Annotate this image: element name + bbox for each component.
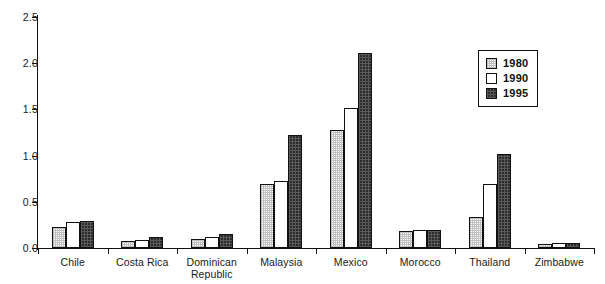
bar bbox=[80, 221, 94, 248]
y-axis-tick: 0.0 bbox=[0, 248, 38, 249]
x-axis-category-label-line: Zimbabwe bbox=[514, 256, 604, 268]
x-axis-tick-mark bbox=[177, 249, 178, 254]
legend-item-label: 1995 bbox=[503, 88, 528, 99]
x-axis-tick-mark bbox=[108, 249, 109, 254]
bar bbox=[566, 243, 580, 248]
bar bbox=[330, 130, 344, 248]
bar bbox=[191, 239, 205, 248]
bar bbox=[413, 230, 427, 248]
y-axis-tick: 1.0 bbox=[0, 156, 38, 157]
legend-item: 1980 bbox=[486, 56, 528, 71]
chart-legend: 198019901995 bbox=[478, 50, 538, 107]
y-axis-tick-label: 1.5 bbox=[8, 104, 38, 114]
y-axis-tick-label: 2.5 bbox=[8, 12, 38, 22]
bar bbox=[205, 237, 219, 248]
bar bbox=[149, 237, 163, 248]
bar-group bbox=[52, 17, 94, 248]
bar-chart: 0.00.51.01.52.02.5 ChileCosta RicaDomini… bbox=[0, 0, 605, 284]
bar bbox=[219, 234, 233, 248]
bar bbox=[399, 231, 413, 248]
x-axis-category-label-line: Republic bbox=[167, 268, 257, 280]
bar bbox=[358, 53, 372, 248]
bar-group bbox=[399, 17, 441, 248]
bar bbox=[288, 135, 302, 248]
bar bbox=[52, 227, 66, 248]
bar bbox=[497, 154, 511, 248]
bar-group bbox=[260, 17, 302, 248]
bar bbox=[552, 243, 566, 248]
bar bbox=[66, 222, 80, 248]
y-axis-tick-label: 2.0 bbox=[8, 58, 38, 68]
bar bbox=[135, 240, 149, 248]
light-stipple-swatch bbox=[486, 58, 497, 69]
x-axis-tick-mark bbox=[594, 249, 595, 254]
bar-group bbox=[538, 17, 580, 248]
legend-item: 1990 bbox=[486, 71, 528, 86]
bar bbox=[538, 244, 552, 248]
x-axis-tick-mark bbox=[455, 249, 456, 254]
bar bbox=[274, 181, 288, 248]
y-axis-tick: 1.5 bbox=[0, 109, 38, 110]
bar-group bbox=[121, 17, 163, 248]
bar bbox=[344, 108, 358, 248]
y-axis-tick-label: 0.0 bbox=[8, 243, 38, 253]
legend-item-label: 1990 bbox=[503, 73, 528, 84]
bar bbox=[260, 184, 274, 248]
bar bbox=[427, 230, 441, 248]
white-swatch bbox=[486, 73, 497, 84]
y-axis-tick: 2.5 bbox=[0, 17, 38, 18]
legend-item: 1995 bbox=[486, 86, 528, 101]
x-axis-tick-mark bbox=[38, 249, 39, 254]
legend-item-label: 1980 bbox=[503, 58, 528, 69]
x-axis-tick-mark bbox=[525, 249, 526, 254]
x-axis-category-label: Zimbabwe bbox=[514, 256, 604, 268]
y-axis-tick-label: 1.0 bbox=[8, 151, 38, 161]
dark-stipple-swatch bbox=[486, 88, 497, 99]
y-axis-tick-label: 0.5 bbox=[8, 197, 38, 207]
y-axis-tick: 0.5 bbox=[0, 202, 38, 203]
x-axis-tick-mark bbox=[247, 249, 248, 254]
bar-group bbox=[330, 17, 372, 248]
bar bbox=[483, 184, 497, 248]
x-axis-tick-mark bbox=[316, 249, 317, 254]
y-axis-tick: 2.0 bbox=[0, 63, 38, 64]
x-axis-tick-mark bbox=[386, 249, 387, 254]
bar-group bbox=[191, 17, 233, 248]
bar bbox=[121, 241, 135, 248]
bar bbox=[469, 217, 483, 248]
